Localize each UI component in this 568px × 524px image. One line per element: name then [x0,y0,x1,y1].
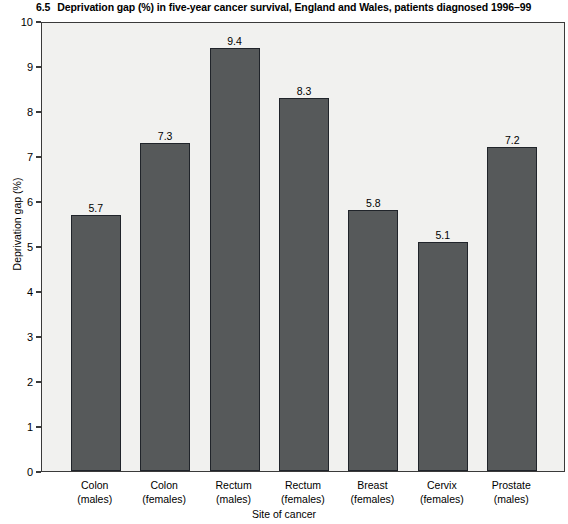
bar-value-label: 8.3 [269,85,339,97]
x-axis-category-name: Rectum [285,479,321,491]
x-axis-category-sex: (males) [472,493,550,507]
x-axis-category-sex: (females) [403,493,481,507]
bar [348,210,398,471]
y-axis-tick-label: 4 [27,285,33,300]
x-axis-category-name: Colon [81,479,108,491]
x-axis-title: Site of cancer [0,508,568,520]
chart-title-text: Deprivation gap (%) in five-year cancer … [57,1,531,13]
y-axis-tick-label: 2 [27,375,33,390]
chart-title: 6.5Deprivation gap (%) in five-year canc… [36,1,566,14]
bar-value-label: 5.1 [408,229,478,241]
chart-title-number: 6.5 [36,1,50,13]
y-axis-tick-label: 6 [27,195,33,210]
x-axis-category-name: Cervix [427,479,457,491]
y-axis-tick-label: 0 [27,465,33,480]
x-axis-category-label: Breast(females) [333,479,411,506]
x-axis-category-label: Colon(females) [125,479,203,506]
x-axis-category-label: Colon(males) [56,479,134,506]
y-axis: 012345678910 [0,22,41,472]
bar [487,147,537,471]
bar-value-label: 7.2 [477,134,547,146]
x-axis-category-sex: (females) [125,493,203,507]
plot-area: 5.77.39.48.35.85.17.2 [41,22,565,472]
y-axis-tick-label: 9 [27,60,33,75]
bar [71,215,121,472]
bar-chart-figure: 6.5Deprivation gap (%) in five-year canc… [0,0,568,524]
x-axis-category-name: Prostate [492,479,531,491]
y-axis-tick-label: 3 [27,330,33,345]
x-axis-category-label: Rectum(females) [264,479,342,506]
bar-value-label: 9.4 [200,35,270,47]
bar [279,98,329,472]
y-axis-tick-label: 5 [27,240,33,255]
x-axis-category-sex: (females) [264,493,342,507]
x-axis-category-name: Breast [357,479,387,491]
x-axis-category-label: Cervix(females) [403,479,481,506]
bar [418,242,468,472]
y-axis-tick-label: 1 [27,420,33,435]
x-axis-category-name: Rectum [215,479,251,491]
y-axis-tick-label: 7 [27,150,33,165]
bar-value-label: 5.7 [61,202,131,214]
bar-value-label: 5.8 [338,197,408,209]
bar [140,143,190,472]
x-axis-category-label: Rectum(males) [195,479,273,506]
bar-value-label: 7.3 [130,130,200,142]
x-axis-category-name: Colon [150,479,177,491]
x-axis-category-sex: (males) [195,493,273,507]
y-axis-tick-label: 8 [27,105,33,120]
x-axis-category-sex: (females) [333,493,411,507]
x-axis-category-sex: (males) [56,493,134,507]
x-axis-category-label: Prostate(males) [472,479,550,506]
bar [210,48,260,471]
y-axis-tick-label: 10 [21,15,33,30]
